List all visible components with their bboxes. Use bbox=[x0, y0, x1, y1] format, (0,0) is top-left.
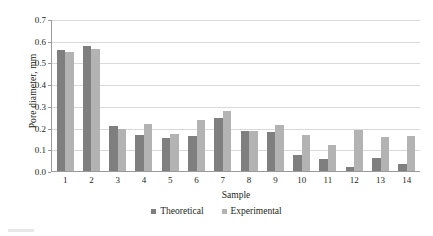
bar-experimental-12[interactable] bbox=[354, 130, 363, 171]
legend-entry-experimental[interactable]: Experimental bbox=[222, 206, 282, 216]
bar-experimental-7[interactable] bbox=[223, 111, 232, 171]
bar-experimental-5[interactable] bbox=[170, 134, 179, 171]
bar-theoretical-6[interactable] bbox=[188, 136, 197, 171]
x-tick-label: 5 bbox=[157, 175, 183, 186]
x-tick-label: 8 bbox=[236, 175, 262, 186]
x-axis-line bbox=[51, 171, 420, 172]
y-tick-label: 0.2 bbox=[22, 124, 46, 133]
bar-experimental-13[interactable] bbox=[381, 137, 390, 171]
x-tick-label: 4 bbox=[131, 175, 157, 186]
bar-experimental-10[interactable] bbox=[302, 135, 311, 171]
y-tick-mark bbox=[48, 20, 51, 21]
bars-layer bbox=[52, 20, 420, 171]
bar-experimental-14[interactable] bbox=[407, 136, 416, 171]
bar-experimental-2[interactable] bbox=[91, 49, 100, 171]
x-tick-label: 1 bbox=[52, 175, 78, 186]
bar-theoretical-12[interactable] bbox=[346, 167, 355, 171]
x-tick-label: 14 bbox=[394, 175, 420, 186]
bar-theoretical-14[interactable] bbox=[398, 164, 407, 171]
y-tick-label: 0.3 bbox=[22, 102, 46, 111]
bar-theoretical-13[interactable] bbox=[372, 158, 381, 171]
bar-group bbox=[105, 20, 131, 171]
bar-experimental-11[interactable] bbox=[328, 145, 337, 171]
bar-group bbox=[131, 20, 157, 171]
bar-theoretical-8[interactable] bbox=[241, 131, 250, 171]
x-tick-label: 13 bbox=[367, 175, 393, 186]
bar-group bbox=[236, 20, 262, 171]
x-tick-label: 6 bbox=[183, 175, 209, 186]
x-tick-label: 3 bbox=[105, 175, 131, 186]
y-tick-mark bbox=[48, 172, 51, 173]
bar-theoretical-1[interactable] bbox=[57, 50, 66, 171]
bar-experimental-4[interactable] bbox=[144, 124, 153, 171]
bar-group bbox=[367, 20, 393, 171]
bar-group bbox=[394, 20, 420, 171]
x-tick-label: 11 bbox=[315, 175, 341, 186]
bar-experimental-9[interactable] bbox=[275, 125, 284, 171]
bar-theoretical-10[interactable] bbox=[293, 155, 302, 171]
bar-group bbox=[262, 20, 288, 171]
y-tick-label: 0.4 bbox=[22, 81, 46, 90]
x-tick-label: 10 bbox=[289, 175, 315, 186]
bar-experimental-1[interactable] bbox=[65, 52, 74, 171]
bar-theoretical-2[interactable] bbox=[83, 46, 92, 172]
bar-theoretical-3[interactable] bbox=[109, 126, 118, 171]
bar-group bbox=[315, 20, 341, 171]
bar-experimental-8[interactable] bbox=[249, 131, 258, 171]
bar-experimental-3[interactable] bbox=[118, 129, 127, 171]
legend-entry-theoretical[interactable]: Theoretical bbox=[151, 206, 203, 216]
bar-theoretical-9[interactable] bbox=[267, 132, 276, 171]
bar-group bbox=[52, 20, 78, 171]
legend-label: Theoretical bbox=[160, 206, 203, 216]
y-axis-tick-labels: 0.70.60.50.40.30.20.10.0 bbox=[22, 20, 46, 172]
bar-group bbox=[157, 20, 183, 171]
y-tick-mark bbox=[48, 150, 51, 151]
y-tick-mark bbox=[48, 129, 51, 130]
legend-swatch-icon bbox=[222, 209, 227, 214]
bar-chart: Pore diameter, mm 0.70.60.50.40.30.20.10… bbox=[0, 0, 433, 236]
y-tick-mark bbox=[48, 42, 51, 43]
bar-group bbox=[183, 20, 209, 171]
bar-theoretical-11[interactable] bbox=[319, 159, 328, 171]
x-tick-label: 2 bbox=[78, 175, 104, 186]
y-tick-mark bbox=[48, 85, 51, 86]
bar-experimental-6[interactable] bbox=[197, 120, 206, 171]
bar-theoretical-4[interactable] bbox=[135, 135, 144, 171]
bar-group bbox=[289, 20, 315, 171]
bar-group bbox=[341, 20, 367, 171]
x-tick-label: 7 bbox=[210, 175, 236, 186]
y-tick-label: 0.0 bbox=[22, 168, 46, 177]
chart-legend: TheoreticalExperimental bbox=[0, 206, 433, 216]
page-edge-artifact bbox=[8, 229, 34, 232]
bar-theoretical-7[interactable] bbox=[214, 118, 223, 171]
legend-swatch-icon bbox=[151, 209, 156, 214]
y-tick-label: 0.5 bbox=[22, 59, 46, 68]
bar-theoretical-5[interactable] bbox=[162, 138, 171, 171]
x-tick-label: 9 bbox=[262, 175, 288, 186]
y-tick-label: 0.7 bbox=[22, 16, 46, 25]
x-axis-title: Sample bbox=[52, 190, 420, 200]
y-tick-mark bbox=[48, 107, 51, 108]
x-tick-label: 12 bbox=[341, 175, 367, 186]
plot-area bbox=[51, 20, 420, 172]
legend-label: Experimental bbox=[231, 206, 282, 216]
bar-group bbox=[78, 20, 104, 171]
bar-group bbox=[210, 20, 236, 171]
y-tick-label: 0.1 bbox=[22, 146, 46, 155]
y-tick-mark bbox=[48, 63, 51, 64]
x-axis-tick-labels: 1234567891011121314 bbox=[52, 175, 420, 186]
y-tick-label: 0.6 bbox=[22, 37, 46, 46]
